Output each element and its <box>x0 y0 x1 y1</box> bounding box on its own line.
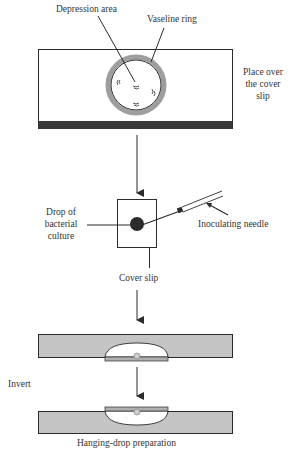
vaseline-ring <box>108 57 164 113</box>
label-inoculating-needle: Inoculating needle <box>198 218 268 230</box>
label-depression-area: Depression area <box>56 3 117 15</box>
label-cover-slip: Cover slip <box>119 272 158 284</box>
bacterial-drop <box>130 217 144 231</box>
hanging-drop-slide <box>39 407 233 434</box>
label-invert: Invert <box>8 378 31 390</box>
label-hanging-drop: Hanging-drop preparation <box>77 437 176 449</box>
slide-dark-edge <box>39 121 233 129</box>
label-drop-of-culture: Drop of bacterial culture <box>36 206 86 242</box>
needle-pointer <box>208 204 228 215</box>
slide-over-coverslip <box>39 335 233 362</box>
label-vaseline-ring: Vaseline ring <box>147 13 197 25</box>
label-place-over: Place over the cover slip <box>234 66 292 102</box>
